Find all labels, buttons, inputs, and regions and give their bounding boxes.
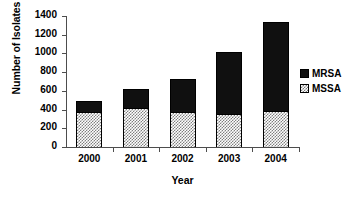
y-axis-tick-label: 1200 [17,28,57,39]
bar-segment-mssa[interactable] [263,111,289,147]
y-axis-tick: 600 [62,91,67,92]
stacked-bar-chart: Number of Isolates 020040060080010001200… [0,0,352,201]
y-axis-tick-label: 400 [17,103,57,114]
x-axis-title: Year [66,174,299,186]
y-axis-tick: 200 [62,128,67,129]
y-axis-tick-label: 0 [17,140,57,151]
y-axis-tick: 1400 [62,16,67,17]
y-axis-tick: 1200 [62,35,67,36]
bar-stack[interactable] [216,52,242,147]
y-axis-tick-label: 1000 [17,46,57,57]
y-axis-tick-label: 200 [17,121,57,132]
bar-segment-mrsa[interactable] [76,101,102,112]
x-axis-tick [113,147,114,152]
legend-item[interactable]: MSSA [300,81,341,96]
bar-segment-mrsa[interactable] [263,22,289,111]
bar-stack[interactable] [170,79,196,147]
solid-black-swatch [300,69,309,78]
y-axis-tick: 1000 [62,53,67,54]
x-axis-line [66,147,299,148]
hatched-swatch [300,84,309,93]
x-axis-tick [252,147,253,152]
bar-segment-mrsa[interactable] [123,89,149,108]
chart-legend: MRSAMSSA [300,66,341,96]
legend-item[interactable]: MRSA [300,66,341,81]
bar-segment-mssa[interactable] [76,112,102,147]
bar-stack[interactable] [76,101,102,147]
bar-segment-mssa[interactable] [170,112,196,147]
bar-segment-mrsa[interactable] [170,79,196,112]
y-axis-tick-label: 600 [17,84,57,95]
x-axis-tick [206,147,207,152]
bar-stack[interactable] [263,22,289,147]
y-axis-tick-label: 1400 [17,9,57,20]
legend-item-label: MRSA [312,68,341,79]
bar-segment-mssa[interactable] [123,108,149,147]
bar-stack[interactable] [123,89,149,147]
x-axis-tick [159,147,160,152]
y-axis-tick: 800 [62,72,67,73]
bar-segment-mrsa[interactable] [216,52,242,114]
plot-area: 0200400600800100012001400 20002001200220… [66,17,299,148]
bar-segment-mssa[interactable] [216,114,242,147]
y-axis-tick: 400 [62,110,67,111]
y-axis-tick: 0 [62,147,67,148]
legend-item-label: MSSA [312,83,341,94]
x-axis-tick-label: 2004 [246,153,306,164]
y-axis-tick-label: 800 [17,65,57,76]
x-axis-tick [299,147,300,152]
